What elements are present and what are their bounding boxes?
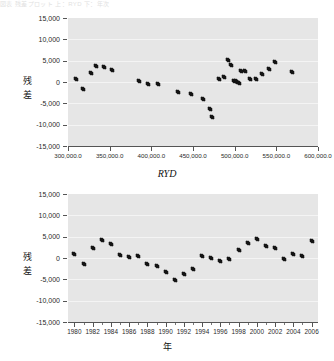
y-axis-title-char-0: 残 bbox=[20, 250, 34, 264]
data-point bbox=[245, 241, 251, 247]
x-axis-tick bbox=[193, 147, 194, 151]
x-axis-tick-label: 500,000.0 bbox=[218, 152, 252, 159]
y-axis-tick-label: -10,000 bbox=[34, 121, 60, 128]
data-point bbox=[266, 66, 272, 72]
data-point bbox=[145, 81, 151, 87]
data-point bbox=[221, 74, 227, 80]
data-point bbox=[80, 86, 86, 92]
x-axis-title-year: 年 bbox=[0, 340, 334, 353]
x-axis-tick bbox=[129, 323, 130, 327]
y-axis-tick-label: 15,000 bbox=[34, 15, 60, 22]
data-point bbox=[207, 106, 213, 112]
gridline-horizontal bbox=[68, 39, 318, 40]
x-axis-tick bbox=[151, 147, 152, 151]
y-axis-tick-label: -10,000 bbox=[34, 297, 60, 304]
data-point bbox=[272, 245, 278, 251]
y-axis-title-char-0: 残 bbox=[20, 74, 34, 88]
data-point bbox=[209, 114, 215, 120]
chart-residual-vs-year: 残 差 年 15,00010,0005,0000-5,000-10,000-15… bbox=[0, 188, 334, 361]
y-axis-tick bbox=[63, 322, 67, 323]
y-axis-tick bbox=[63, 194, 67, 195]
y-axis-title-top: 残 差 bbox=[20, 74, 34, 102]
data-point bbox=[181, 271, 187, 277]
data-point bbox=[154, 263, 160, 269]
gridline-horizontal bbox=[68, 215, 318, 216]
y-axis-tick-label: -5,000 bbox=[34, 100, 60, 107]
data-point bbox=[259, 71, 265, 77]
x-axis-tick-label: 400,000.0 bbox=[134, 152, 168, 159]
data-point bbox=[208, 255, 214, 261]
x-axis-tick bbox=[111, 323, 112, 327]
x-axis-tick bbox=[235, 147, 236, 151]
y-axis-tick bbox=[63, 146, 67, 147]
y-axis-tick-label: 10,000 bbox=[34, 212, 60, 219]
gridline-horizontal bbox=[68, 125, 318, 126]
x-axis-minor-tick bbox=[102, 323, 103, 325]
y-axis-tick-label: -15,000 bbox=[34, 143, 60, 150]
y-axis-tick-label: 5,000 bbox=[34, 233, 60, 240]
data-point bbox=[188, 92, 194, 98]
x-axis-title-ryd: RYD bbox=[0, 168, 334, 179]
data-point bbox=[199, 253, 205, 259]
data-point bbox=[73, 76, 79, 82]
data-point bbox=[136, 78, 142, 84]
data-point bbox=[236, 247, 242, 253]
y-axis-title-char-1: 差 bbox=[20, 264, 34, 278]
y-axis-tick bbox=[63, 103, 67, 104]
data-point bbox=[72, 251, 78, 257]
x-axis-minor-tick bbox=[193, 323, 194, 325]
y-axis-tick bbox=[63, 61, 67, 62]
y-axis-title-char-1: 差 bbox=[20, 88, 34, 102]
x-axis-minor-tick bbox=[266, 323, 267, 325]
x-axis-minor-tick bbox=[284, 323, 285, 325]
x-axis-minor-tick bbox=[138, 323, 139, 325]
y-axis-tick bbox=[63, 18, 67, 19]
data-point bbox=[190, 266, 196, 272]
y-axis-tick-label: 0 bbox=[34, 255, 60, 262]
data-point bbox=[90, 245, 96, 251]
gridline-horizontal bbox=[68, 61, 318, 62]
data-point bbox=[289, 69, 295, 75]
figure-residual-plots: 図表 残差プロット 上：RYD 下：年次 残 差 RYD 15,00010,00… bbox=[0, 0, 334, 361]
y-axis-tick-label: 5,000 bbox=[34, 57, 60, 64]
x-axis-tick bbox=[202, 323, 203, 327]
data-point bbox=[228, 63, 234, 69]
data-point bbox=[93, 63, 99, 69]
x-axis-tick bbox=[184, 323, 185, 327]
x-axis-minor-tick bbox=[229, 323, 230, 325]
x-axis-minor-tick bbox=[302, 323, 303, 325]
gridline-horizontal bbox=[68, 237, 318, 238]
x-axis-tick-label: 450,000.0 bbox=[176, 152, 210, 159]
x-axis-tick bbox=[318, 147, 319, 151]
data-point bbox=[254, 236, 260, 242]
y-axis-tick-label: -5,000 bbox=[34, 276, 60, 283]
x-axis-tick bbox=[312, 323, 313, 327]
x-axis-minor-tick bbox=[248, 323, 249, 325]
x-axis-minor-tick bbox=[211, 323, 212, 325]
gridline-horizontal bbox=[68, 279, 318, 280]
y-axis-tick-label: 10,000 bbox=[34, 36, 60, 43]
x-axis-tick-label: 600,000.0 bbox=[301, 152, 334, 159]
x-axis-tick-label: 350,000.0 bbox=[93, 152, 127, 159]
plot-area-top bbox=[68, 18, 318, 146]
y-axis-title-bottom: 残 差 bbox=[20, 250, 34, 278]
data-point bbox=[218, 258, 224, 264]
x-axis-tick bbox=[93, 323, 94, 327]
y-axis-tick bbox=[63, 215, 67, 216]
data-point bbox=[88, 70, 94, 76]
y-axis-tick bbox=[63, 82, 67, 83]
data-point bbox=[163, 269, 169, 275]
x-axis-tick bbox=[110, 147, 111, 151]
data-point bbox=[263, 244, 269, 250]
data-point bbox=[126, 254, 132, 260]
y-axis-tick bbox=[63, 125, 67, 126]
scan-header-strip: 図表 残差プロット 上：RYD 下：年次 bbox=[0, 0, 334, 9]
data-point bbox=[175, 89, 181, 95]
data-point bbox=[108, 241, 114, 247]
y-axis-tick bbox=[63, 258, 67, 259]
y-axis-tick-label: 15,000 bbox=[34, 191, 60, 198]
x-axis-tick bbox=[147, 323, 148, 327]
y-axis-tick bbox=[63, 237, 67, 238]
x-axis-minor-tick bbox=[120, 323, 121, 325]
x-axis-tick bbox=[239, 323, 240, 327]
